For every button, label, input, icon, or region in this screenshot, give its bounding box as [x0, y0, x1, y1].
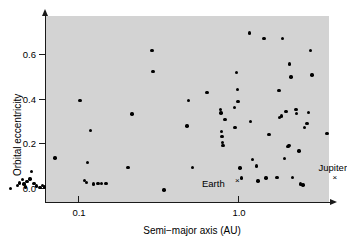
- annotation-marker-earth: ×: [235, 177, 240, 185]
- annotation-label-earth: Earth: [202, 179, 225, 189]
- annotation-label-jupiter: Jupiter: [319, 163, 347, 173]
- annotation-marker-jupiter: ×: [333, 174, 338, 182]
